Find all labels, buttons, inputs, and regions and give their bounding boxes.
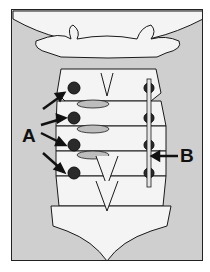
illustration-frame (11, 9, 203, 261)
label-a: A (22, 126, 36, 145)
spine-illustration (12, 10, 203, 261)
label-b: B (180, 146, 194, 165)
rod (147, 79, 151, 187)
